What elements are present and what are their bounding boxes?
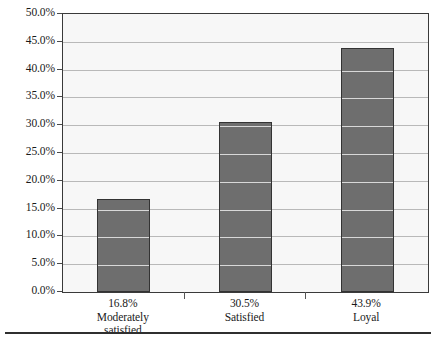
category-label: 43.9%Loyal	[305, 297, 427, 324]
bar-gridline-bleed	[98, 210, 149, 211]
bar-gridline-bleed	[342, 71, 393, 72]
bar-gridline-bleed	[342, 182, 393, 183]
y-axis-tick-label: 10.0%	[0, 229, 55, 241]
y-axis-tick-label: 25.0%	[0, 146, 55, 158]
bar	[219, 122, 272, 292]
y-axis-tick-label: 15.0%	[0, 202, 55, 214]
category-value-label: 43.9%	[305, 297, 427, 311]
y-axis-tick-label: 35.0%	[0, 90, 55, 102]
gridline	[63, 42, 428, 43]
bar-chart-figure: 50.0%45.0%40.0%35.0%30.0%25.0%20.0%15.0%…	[0, 0, 436, 344]
bar	[341, 48, 394, 292]
y-axis-tick-label: 30.0%	[0, 118, 55, 130]
category-label: 30.5%Satisfied	[184, 297, 306, 324]
plot-area	[62, 13, 429, 293]
bottom-divider	[5, 332, 431, 334]
bar-gridline-bleed	[342, 154, 393, 155]
bar-gridline-bleed	[342, 237, 393, 238]
category-name-line: Satisfied	[184, 311, 306, 325]
y-axis-tick-label: 5.0%	[0, 257, 55, 269]
bar-gridline-bleed	[342, 98, 393, 99]
bar-gridline-bleed	[220, 265, 271, 266]
bar-gridline-bleed	[220, 126, 271, 127]
bar-gridline-bleed	[342, 126, 393, 127]
bar-gridline-bleed	[220, 210, 271, 211]
bar-gridline-bleed	[342, 265, 393, 266]
category-value-label: 30.5%	[184, 297, 306, 311]
bar-gridline-bleed	[342, 210, 393, 211]
category-name-line: Loyal	[305, 311, 427, 325]
category-value-label: 16.8%	[62, 297, 184, 311]
bar-gridline-bleed	[98, 237, 149, 238]
bar-gridline-bleed	[220, 182, 271, 183]
y-axis-tick-label: 20.0%	[0, 174, 55, 186]
category-name-line: Moderately	[62, 311, 184, 325]
y-axis-tick-label: 50.0%	[0, 7, 55, 19]
bar-gridline-bleed	[98, 265, 149, 266]
y-axis-tick-label: 45.0%	[0, 35, 55, 47]
y-axis-tick-label: 40.0%	[0, 63, 55, 75]
y-axis-tick-label: 0.0%	[0, 285, 55, 297]
bar-gridline-bleed	[220, 154, 271, 155]
bar-gridline-bleed	[220, 237, 271, 238]
category-name-line: satisfied	[62, 324, 184, 338]
bar	[97, 199, 150, 292]
